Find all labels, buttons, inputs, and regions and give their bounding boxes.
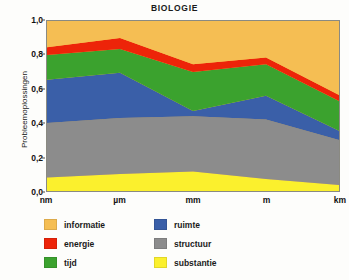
- stacked-area-plot: [47, 21, 339, 191]
- y-tick-label-1: 0,2: [13, 153, 43, 163]
- legend-label-informatie: informatie: [64, 220, 105, 230]
- legend-label-energie: energie: [64, 239, 94, 249]
- x-tick-label-mm: mm: [173, 195, 213, 205]
- legend-entry-tijd: tijd: [44, 257, 154, 268]
- legend-label-ruimte: ruimte: [174, 220, 200, 230]
- x-tick-label-nm: nm: [26, 195, 66, 205]
- legend-label-tijd: tijd: [64, 258, 77, 268]
- legend-swatch-energie: [44, 238, 57, 249]
- legend-swatch-tijd: [44, 257, 57, 268]
- legend-entry-informatie: informatie: [44, 219, 154, 230]
- legend-entry-substantie: substantie: [154, 257, 284, 268]
- legend-entry-ruimte: ruimte: [154, 219, 284, 230]
- chart-legend: informatieruimteenergiestructuurtijdsubs…: [44, 215, 324, 272]
- legend-entry-structuur: structuur: [154, 238, 284, 249]
- legend-label-structuur: structuur: [174, 239, 211, 249]
- legend-swatch-informatie: [44, 219, 57, 230]
- y-tick-mark-3: [42, 88, 45, 89]
- y-tick-mark-0: [42, 192, 45, 193]
- plot-area: [46, 20, 340, 192]
- y-tick-mark-4: [42, 54, 45, 55]
- legend-entry-energie: energie: [44, 238, 154, 249]
- y-tick-label-4: 0,8: [13, 49, 43, 59]
- y-tick-mark-1: [42, 157, 45, 158]
- x-tick-label-m: m: [247, 195, 287, 205]
- y-tick-label-3: 0,6: [13, 84, 43, 94]
- chart-figure: BIOLOGIE Probleemoplossingen 0,00,20,40,…: [0, 0, 349, 280]
- legend-swatch-structuur: [154, 238, 167, 249]
- legend-label-substantie: substantie: [174, 258, 217, 268]
- legend-swatch-substantie: [154, 257, 167, 268]
- y-tick-mark-2: [42, 123, 45, 124]
- x-tick-label-µm: µm: [100, 195, 140, 205]
- legend-swatch-ruimte: [154, 219, 167, 230]
- chart-title: BIOLOGIE: [0, 3, 349, 13]
- y-tick-label-2: 0,4: [13, 118, 43, 128]
- y-tick-mark-5: [42, 20, 45, 21]
- x-tick-label-km: km: [320, 195, 349, 205]
- y-tick-label-5: 1,0: [13, 15, 43, 25]
